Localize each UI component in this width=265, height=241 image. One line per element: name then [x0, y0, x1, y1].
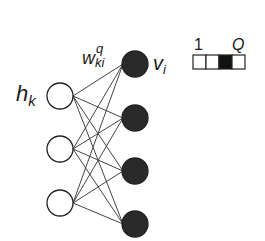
weight-label-superscript: q	[96, 41, 104, 56]
visible-node	[122, 158, 148, 184]
hidden-node	[47, 190, 73, 216]
weight-label-subscript: ki	[95, 55, 106, 70]
hidden-node	[47, 136, 73, 162]
visible-node	[122, 211, 148, 237]
hidden-label: hk	[16, 81, 37, 109]
weight-label: w	[82, 48, 96, 68]
hidden-label-subscript: k	[28, 92, 37, 109]
legend-cell	[193, 55, 206, 69]
weight-edge	[73, 64, 123, 203]
visible-label-subscript: i	[163, 62, 167, 77]
legend-cell	[232, 55, 245, 69]
legend-cell	[206, 55, 219, 69]
legend-end-label: Q	[232, 36, 244, 53]
visible-layer	[122, 51, 148, 237]
hidden-layer	[47, 83, 73, 216]
legend-start-label: 1	[194, 36, 203, 53]
weight-edge	[73, 171, 123, 203]
hidden-node	[47, 83, 73, 109]
one-hot-legend: 1 Q	[193, 36, 245, 69]
legend-cells	[193, 55, 245, 69]
visible-label: vi	[153, 52, 167, 77]
rbm-diagram: hk w q ki vi 1 Q	[0, 0, 265, 241]
visible-node	[122, 105, 148, 131]
connection-edges	[73, 64, 123, 224]
legend-cell-active	[219, 55, 232, 69]
visible-node	[122, 51, 148, 77]
